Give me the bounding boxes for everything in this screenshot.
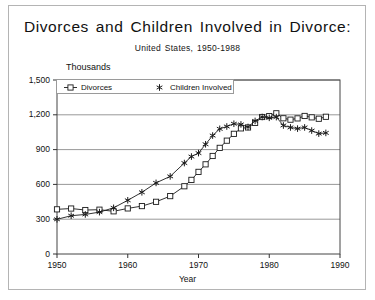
x-tick-label: 1970: [179, 260, 219, 270]
y-tick-label: 600: [16, 179, 50, 189]
legend-item-divorces: Divorces: [64, 81, 112, 94]
y-tick-label: 0: [16, 249, 50, 259]
chart-figure: Divorces and Children Involved in Divorc…: [0, 0, 375, 300]
data-series: [54, 114, 329, 223]
legend-item-label: Children Involved: [170, 83, 232, 92]
legend-item-children-involved: Children Involved: [153, 81, 232, 94]
y-tick-label: 1,500: [16, 75, 50, 85]
legend-item-label: Divorces: [81, 83, 112, 92]
x-tick-label: 1990: [320, 260, 360, 270]
plot-svg: [0, 0, 375, 300]
x-tick-label: 1960: [108, 260, 148, 270]
square-marker-icon: [64, 82, 77, 93]
y-tick-label: 300: [16, 214, 50, 224]
plot-area: [0, 0, 375, 300]
star-marker-icon: [153, 82, 166, 93]
y-tick-label: 1,200: [16, 109, 50, 119]
plot-frame: [57, 80, 340, 254]
x-tick-label: 1950: [37, 260, 77, 270]
x-axis-title: Year: [0, 274, 375, 284]
y-tick-label: 900: [16, 144, 50, 154]
chart-legend: Divorces Children Involved: [56, 79, 234, 94]
x-tick-label: 1980: [249, 260, 289, 270]
